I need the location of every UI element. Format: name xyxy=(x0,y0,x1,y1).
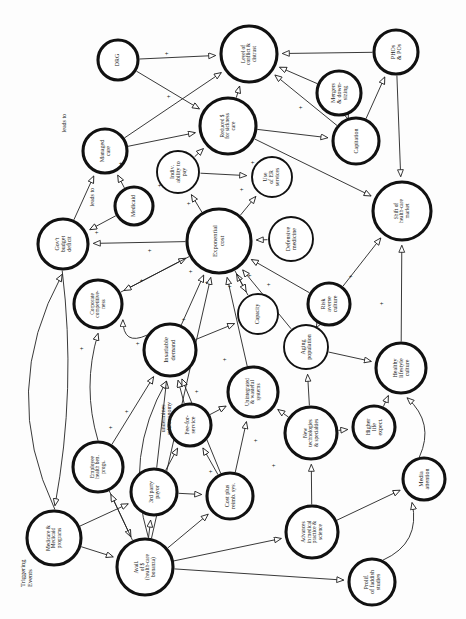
causal-edge xyxy=(174,539,281,561)
polarity-sign-positive: + xyxy=(181,318,188,322)
node-costplus[interactable] xyxy=(207,473,253,519)
diagram-canvas: DRGLevel of conflict & distrustPHOs & PO… xyxy=(0,0,466,619)
causal-edge xyxy=(124,257,189,291)
causal-edge xyxy=(111,495,133,541)
node-corporate[interactable] xyxy=(74,280,122,328)
node-risk[interactable] xyxy=(308,283,350,325)
polarity-sign-positive: + xyxy=(247,274,254,278)
node-advances[interactable] xyxy=(286,506,338,558)
causal-edge xyxy=(94,242,186,244)
triggering-events-label: Triggering Events xyxy=(19,547,33,587)
node-conflict[interactable] xyxy=(221,26,277,82)
causal-edge xyxy=(128,133,195,147)
polarity-sign-positive: + xyxy=(379,302,386,306)
polarity-sign-positive: + xyxy=(147,249,154,253)
causal-edge xyxy=(338,430,347,431)
diagram-svg xyxy=(0,0,466,619)
causal-edge xyxy=(81,547,113,557)
node-phos[interactable] xyxy=(374,30,418,74)
causal-edge xyxy=(280,67,318,83)
node-defensive[interactable] xyxy=(269,217,313,261)
polarity-sign-positive: + xyxy=(157,184,164,188)
polarity-sign-positive: + xyxy=(266,283,273,287)
causal-edge xyxy=(179,493,202,494)
causal-edge xyxy=(407,398,425,457)
causal-edge xyxy=(283,52,373,53)
polarity-sign-positive: + xyxy=(298,106,305,110)
node-mergers[interactable] xyxy=(317,71,361,115)
causal-edge xyxy=(240,197,255,216)
node-capacity[interactable] xyxy=(238,294,278,334)
polarity-sign-positive: + xyxy=(94,231,101,235)
causal-edge xyxy=(174,569,343,580)
causal-edge xyxy=(329,352,371,361)
node-prolif[interactable] xyxy=(349,559,395,605)
causal-edge xyxy=(383,503,414,560)
causal-edge xyxy=(118,175,125,188)
causal-edge xyxy=(28,275,62,510)
edge-label-leadsto2: leads to xyxy=(89,175,95,219)
causal-edge xyxy=(210,406,226,414)
causal-edge xyxy=(149,520,151,537)
causal-edge xyxy=(123,320,147,339)
causal-edge xyxy=(308,375,310,406)
causal-edge xyxy=(278,410,289,418)
polarity-sign-positive: + xyxy=(186,202,193,206)
node-employee[interactable] xyxy=(73,442,123,492)
node-expcost[interactable] xyxy=(187,209,251,273)
polarity-sign-positive: + xyxy=(208,470,215,474)
node-er[interactable] xyxy=(252,157,292,197)
node-deficit[interactable] xyxy=(38,219,88,269)
causal-edge xyxy=(337,490,400,520)
polarity-sign-positive: + xyxy=(222,358,229,362)
node-reduced[interactable] xyxy=(200,98,256,154)
causal-edge xyxy=(236,86,239,98)
node-media[interactable] xyxy=(403,458,445,500)
causal-edge xyxy=(235,422,246,472)
polarity-sign-positive: + xyxy=(194,390,201,394)
polarity-sign-positive: + xyxy=(188,270,195,274)
node-fee[interactable] xyxy=(169,404,211,446)
causal-edge xyxy=(168,514,209,548)
node-avail[interactable] xyxy=(117,539,173,595)
node-shift[interactable] xyxy=(373,182,431,240)
causal-edge xyxy=(195,149,204,157)
node-insatiable[interactable] xyxy=(144,324,196,376)
node-medicare[interactable] xyxy=(27,511,81,565)
causal-edge xyxy=(201,173,247,175)
causal-edge xyxy=(112,377,154,445)
causal-edge xyxy=(366,77,385,119)
node-healthy[interactable] xyxy=(376,343,426,393)
node-unintegr[interactable] xyxy=(228,367,278,417)
polarity-sign-positive: + xyxy=(139,279,146,283)
polarity-sign-positive: + xyxy=(79,347,86,351)
polarity-sign-positive: + xyxy=(166,95,173,99)
polarity-sign-positive: + xyxy=(164,52,171,56)
polarity-sign-positive: + xyxy=(108,426,115,430)
node-medicaid[interactable] xyxy=(115,187,153,225)
edge-label-leadsto1: leads to xyxy=(61,101,67,145)
node-aging[interactable] xyxy=(284,325,328,369)
causal-edge xyxy=(383,396,388,407)
polarity-sign-positive: + xyxy=(204,281,211,285)
node-higher[interactable] xyxy=(353,406,395,448)
node-newtech[interactable] xyxy=(285,407,337,459)
polarity-sign-positive: + xyxy=(271,464,278,468)
node-managed[interactable] xyxy=(83,129,127,173)
causal-edge xyxy=(196,324,235,340)
causal-edge xyxy=(90,334,98,441)
polarity-sign-positive: + xyxy=(253,439,260,443)
polarity-sign-positive: + xyxy=(250,161,257,165)
polarity-sign-positive: + xyxy=(118,162,125,166)
node-drg[interactable] xyxy=(98,40,138,80)
causal-edge xyxy=(257,129,327,137)
causal-edge xyxy=(252,260,310,293)
causal-edge xyxy=(55,271,68,506)
polarity-sign-positive: + xyxy=(135,342,142,346)
causal-edge xyxy=(397,76,401,177)
node-capitation[interactable] xyxy=(333,118,379,164)
causal-edge xyxy=(140,56,216,60)
causal-edge xyxy=(235,271,246,292)
polarity-sign-positive: + xyxy=(348,275,355,279)
node-thirdparty[interactable] xyxy=(131,469,177,515)
